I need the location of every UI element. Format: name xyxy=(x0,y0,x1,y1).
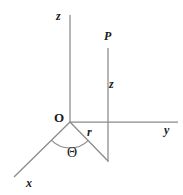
y-axis-label: y xyxy=(164,124,169,136)
figure-canvas xyxy=(0,0,183,195)
z-coordinate-label: z xyxy=(109,78,114,90)
point-p-label: P xyxy=(104,30,111,42)
x-axis-line xyxy=(14,122,70,177)
x-axis-label: x xyxy=(26,177,32,189)
radius-label: r xyxy=(87,126,92,138)
theta-angle-label: Θ xyxy=(67,146,77,160)
origin-label: O xyxy=(54,111,64,124)
cylindrical-coordinates-figure: z P z O r y x Θ xyxy=(0,0,183,195)
z-axis-label: z xyxy=(56,10,61,22)
